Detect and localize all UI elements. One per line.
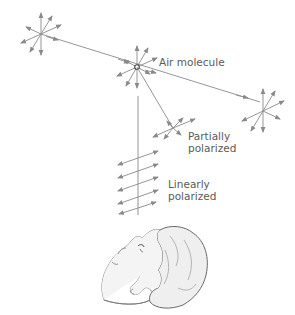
partially-polarized-label-line1: Partially [188, 130, 230, 142]
observer-head-icon [102, 226, 207, 308]
linearly-polarized-label-line2: polarized [168, 190, 216, 202]
incident-beam [41, 34, 260, 102]
partially-polarized-label-line2: polarized [188, 142, 236, 154]
sky-polarization-diagram: Air molecule Partially polarized Linearl… [0, 0, 295, 315]
forward-unpolarized-light-icon [242, 89, 284, 132]
unpolarized-light-source-icon [21, 13, 61, 55]
linearly-polarized-label-line1: Linearly [168, 178, 210, 190]
diagram-canvas [0, 0, 295, 315]
air-molecule-label: Air molecule [159, 56, 225, 68]
oblique-scattered-beam [137, 67, 173, 128]
